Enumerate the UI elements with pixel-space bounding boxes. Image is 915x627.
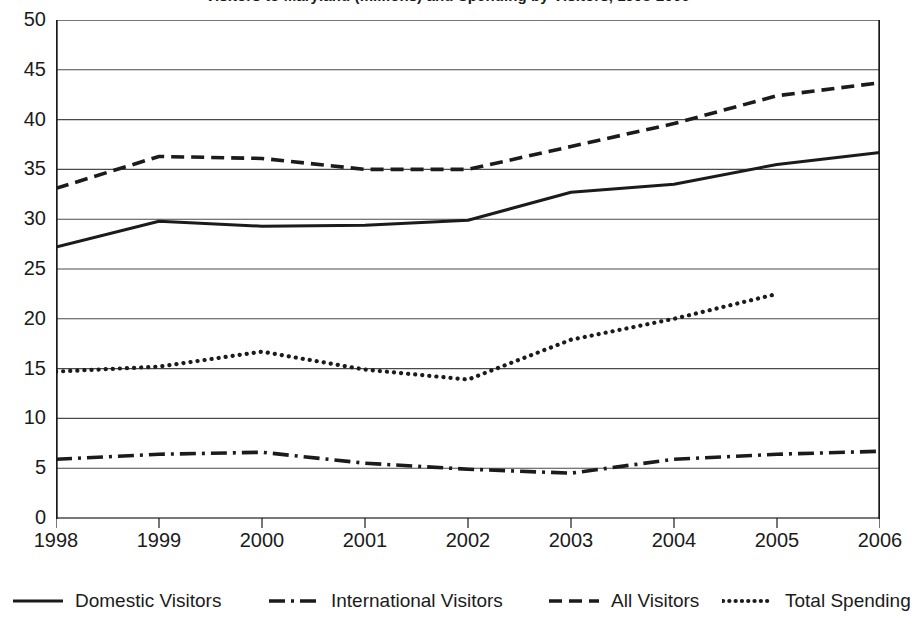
plot-area — [56, 20, 880, 518]
x-tick-label: 2006 — [835, 528, 915, 552]
legend-swatch-dotted-icon — [722, 594, 774, 608]
series-line-total-spending — [56, 294, 777, 380]
series-line-all-visitors — [56, 83, 880, 189]
y-tick-label: 50 — [6, 9, 46, 29]
legend-swatch-dashed-icon — [548, 594, 600, 608]
y-tick-label: 15 — [6, 358, 46, 378]
y-tick-label: 5 — [6, 457, 46, 477]
legend-swatch-solid-icon — [12, 594, 64, 608]
x-tick-label: 2002 — [423, 528, 513, 552]
x-tick-label: 1999 — [114, 528, 204, 552]
plot-svg — [56, 20, 880, 536]
legend-item-total-spending[interactable]: Total Spending — [722, 586, 911, 616]
x-tick-label: 2003 — [526, 528, 616, 552]
chart-title: Visitors to Maryland (millions) and Spen… — [0, 0, 895, 5]
x-axis-tick-labels: 199819992000200120022003200420052006 — [56, 528, 880, 564]
y-tick-label: 25 — [6, 258, 46, 278]
y-tick-label: 0 — [6, 507, 46, 527]
series-line-domestic-visitors — [56, 152, 880, 247]
y-tick-label: 20 — [6, 308, 46, 328]
series-line-international-visitors — [56, 451, 880, 473]
y-tick-label: 40 — [6, 109, 46, 129]
x-tick-label: 1998 — [11, 528, 101, 552]
legend-label: International Visitors — [331, 590, 503, 612]
legend-item-domestic-visitors[interactable]: Domestic Visitors — [12, 586, 221, 616]
chart-legend: Domestic VisitorsInternational VisitorsA… — [0, 586, 895, 622]
x-tick-label: 2000 — [217, 528, 307, 552]
y-tick-label: 35 — [6, 158, 46, 178]
legend-item-all-visitors[interactable]: All Visitors — [548, 586, 699, 616]
x-tick-label: 2004 — [629, 528, 719, 552]
legend-item-international-visitors[interactable]: International Visitors — [268, 586, 503, 616]
y-tick-label: 30 — [6, 208, 46, 228]
legend-swatch-dash-dot-icon — [268, 594, 320, 608]
x-tick-label: 2001 — [320, 528, 410, 552]
y-tick-label: 45 — [6, 59, 46, 79]
legend-label: Total Spending — [785, 590, 911, 612]
legend-label: All Visitors — [611, 590, 699, 612]
y-axis-tick-labels: 50454035302520151050 — [0, 0, 46, 538]
x-tick-label: 2005 — [732, 528, 822, 552]
y-tick-label: 10 — [6, 407, 46, 427]
legend-label: Domestic Visitors — [75, 590, 221, 612]
